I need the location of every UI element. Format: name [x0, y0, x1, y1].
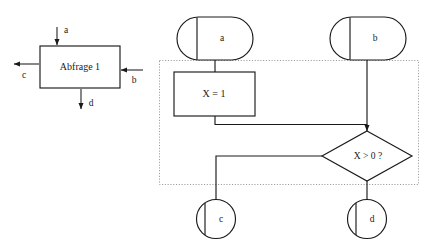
terminal-d-label: d [370, 214, 375, 224]
port-b-label: b [132, 75, 137, 85]
flowchart-svg: Abfrage 1 a b c d a [0, 0, 432, 247]
terminal-a-shape [177, 17, 253, 60]
port-d-label: d [89, 98, 94, 108]
process-box-label: X = 1 [203, 88, 226, 99]
connector-decision-to-c [216, 156, 322, 200]
terminal-c[interactable]: c [197, 200, 236, 239]
terminal-a[interactable]: a [177, 17, 253, 60]
abfrage-box-label: Abfrage 1 [60, 61, 100, 72]
terminal-b-shape [330, 17, 406, 60]
connector-process-to-decision [215, 116, 367, 131]
terminal-c-shape [197, 200, 236, 239]
diagram-canvas: Abfrage 1 a b c d a [0, 0, 432, 247]
terminal-c-label: c [219, 214, 223, 224]
terminal-b[interactable]: b [330, 17, 406, 60]
port-a-label: a [64, 25, 69, 35]
decision-diamond-label: X > 0 ? [354, 151, 382, 161]
decision-diamond[interactable]: X > 0 ? [322, 131, 412, 181]
process-box[interactable]: X = 1 [174, 72, 255, 116]
flowchart-view: a b X = 1 X > 0 ? [160, 17, 419, 239]
terminal-d-shape [348, 200, 387, 239]
black-box-view: Abfrage 1 a b c d [14, 25, 143, 109]
port-c-label: c [22, 70, 26, 80]
terminal-b-label: b [373, 33, 378, 43]
terminal-d[interactable]: d [348, 200, 387, 239]
